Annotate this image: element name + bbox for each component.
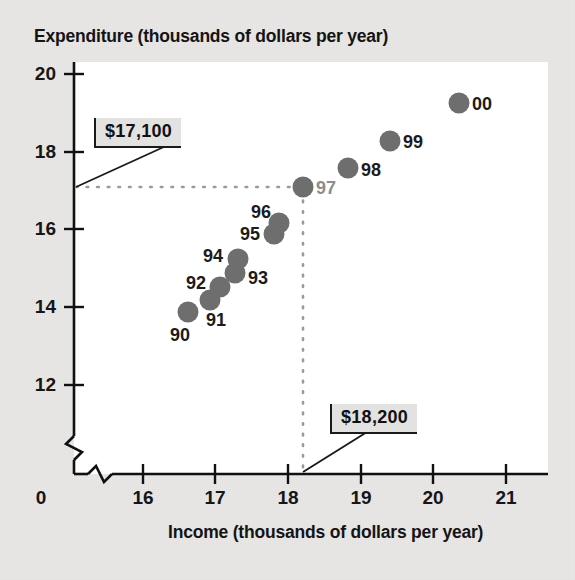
data-point-99[interactable] bbox=[380, 131, 401, 152]
data-point-97[interactable] bbox=[293, 177, 314, 198]
y-tick-label-16: 16 bbox=[16, 218, 56, 240]
expenditure-callout-text: $17,100 bbox=[94, 118, 181, 148]
point-label-91: 91 bbox=[206, 310, 226, 331]
point-label-95: 95 bbox=[240, 224, 260, 245]
x-tick-label-0: 0 bbox=[21, 487, 61, 509]
point-label-92: 92 bbox=[186, 273, 206, 294]
point-label-93: 93 bbox=[248, 268, 268, 289]
data-point-98[interactable] bbox=[338, 158, 359, 179]
data-points bbox=[178, 93, 470, 323]
point-label-96: 96 bbox=[251, 202, 271, 223]
y-tick-label-18: 18 bbox=[16, 141, 56, 163]
data-point-94[interactable] bbox=[228, 249, 249, 270]
x-tick-label-19: 19 bbox=[341, 487, 381, 509]
point-label-97: 97 bbox=[316, 178, 336, 199]
income-callout-leader bbox=[303, 432, 367, 472]
expenditure-callout: $17,100 bbox=[94, 118, 181, 148]
income-callout: $18,200 bbox=[330, 404, 417, 434]
data-point-90[interactable] bbox=[178, 302, 199, 323]
data-point-00[interactable] bbox=[449, 93, 470, 114]
x-tick-label-18: 18 bbox=[268, 487, 308, 509]
x-tick-label-21: 21 bbox=[486, 487, 526, 509]
point-label-94: 94 bbox=[203, 246, 223, 267]
x-tick-label-20: 20 bbox=[413, 487, 453, 509]
point-label-90: 90 bbox=[170, 325, 190, 346]
x-tick-label-16: 16 bbox=[123, 487, 163, 509]
y-tick-label-20: 20 bbox=[16, 63, 56, 85]
y-tick-label-14: 14 bbox=[16, 296, 56, 318]
scatter-chart-figure: Expenditure (thousands of dollars per ye… bbox=[0, 0, 575, 580]
x-axis bbox=[74, 466, 548, 482]
x-tick-label-17: 17 bbox=[195, 487, 235, 509]
x-axis-break-icon bbox=[88, 466, 112, 482]
income-callout-text: $18,200 bbox=[330, 404, 417, 434]
y-axis-break-icon bbox=[66, 436, 82, 460]
point-label-00: 00 bbox=[472, 94, 492, 115]
expenditure-callout-leader bbox=[76, 146, 166, 187]
point-label-99: 99 bbox=[403, 132, 423, 153]
y-tick-label-12: 12 bbox=[16, 374, 56, 396]
data-point-96[interactable] bbox=[269, 213, 290, 234]
point-label-98: 98 bbox=[361, 160, 381, 181]
y-axis bbox=[66, 62, 82, 474]
